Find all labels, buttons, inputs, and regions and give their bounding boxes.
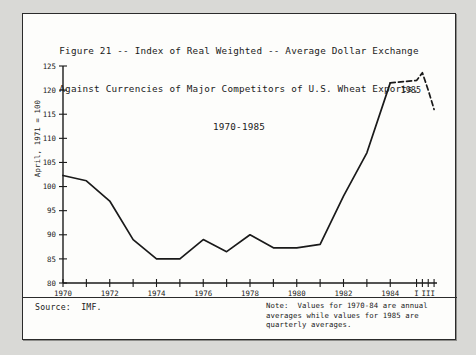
source-note: Source: IMF. <box>35 302 102 312</box>
figure-frame: Figure 21 -- Index of Real Weighted -- A… <box>22 13 456 340</box>
y-axis-label: April, 1971 = 100 <box>33 99 42 179</box>
svg-text:80: 80 <box>47 279 56 288</box>
svg-text:125: 125 <box>43 62 56 71</box>
svg-text:105: 105 <box>43 158 56 167</box>
svg-text:110: 110 <box>43 134 56 143</box>
data-series <box>63 73 434 259</box>
note-line-2: averages while values for 1985 are <box>266 311 451 321</box>
note-line-3: quarterly averages. <box>266 320 451 330</box>
figure-page: Figure 21 -- Index of Real Weighted -- A… <box>0 0 476 355</box>
svg-text:90: 90 <box>47 230 56 239</box>
svg-text:120: 120 <box>43 86 56 95</box>
svg-text:85: 85 <box>47 255 56 264</box>
svg-text:95: 95 <box>47 206 56 215</box>
x-axis: 19701972197419761978198019821984IIII <box>54 279 437 298</box>
chart-note: Note: Values for 1970-84 are annual aver… <box>266 301 451 330</box>
note-line-1: Note: Values for 1970-84 are annual <box>266 301 451 311</box>
line-chart: 80859095100105110115120125 1970197219741… <box>23 14 457 341</box>
plot-area: 80859095100105110115120125 1970197219741… <box>23 14 457 341</box>
footer-divider <box>23 297 457 298</box>
svg-text:100: 100 <box>43 182 56 191</box>
svg-text:115: 115 <box>43 110 56 119</box>
annotation-1985: 1985 <box>400 85 421 95</box>
